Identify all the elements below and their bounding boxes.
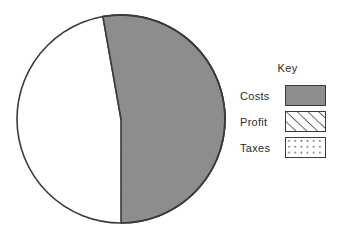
dotted-swatch-icon [285, 137, 326, 158]
solid-gray-swatch-icon [285, 85, 326, 106]
legend-item-taxes[interactable]: Taxes [240, 136, 339, 159]
legend-item-profit[interactable]: Profit [240, 110, 339, 133]
legend-label-profit: Profit [240, 116, 285, 128]
legend-title: Key [240, 62, 339, 74]
diagonal-hatch-swatch-icon [285, 111, 326, 132]
legend-item-costs[interactable]: Costs [240, 84, 339, 107]
legend-label-taxes: Taxes [240, 142, 285, 154]
chart-legend: Key Costs Profit Taxes [240, 62, 339, 162]
pie-slice-costs [103, 15, 225, 223]
pie-chart-figure: Key Costs Profit Taxes [0, 0, 339, 236]
legend-label-costs: Costs [240, 90, 285, 102]
